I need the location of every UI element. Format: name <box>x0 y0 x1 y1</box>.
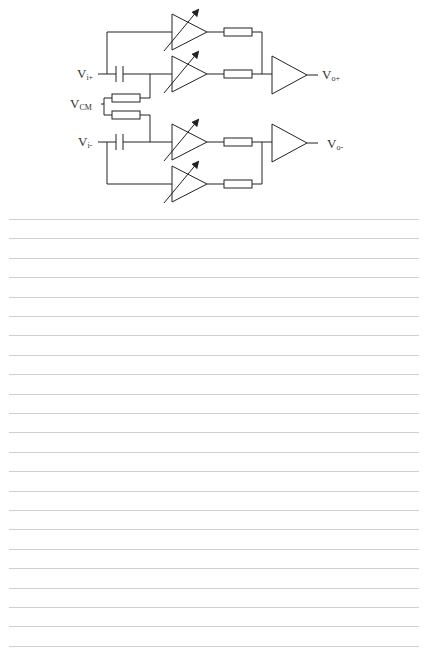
ruled-line <box>9 529 419 530</box>
ruled-line <box>9 510 419 511</box>
circuit-diagram <box>0 0 428 210</box>
vga-1 <box>164 10 262 51</box>
vga-2 <box>164 32 272 93</box>
ruled-line <box>9 607 419 608</box>
ruled-line <box>9 258 419 259</box>
ruled-line <box>9 568 419 569</box>
label-vo-minus: Vo- <box>327 136 343 152</box>
vga-3 <box>164 120 272 161</box>
ruled-line <box>9 588 419 589</box>
label-vi-plus: Vi+ <box>77 66 93 82</box>
ruled-line <box>9 374 419 375</box>
ruled-line <box>9 219 419 220</box>
ruled-line <box>9 335 419 336</box>
resistor-vcm-top <box>112 94 140 102</box>
ruled-line <box>9 432 419 433</box>
vi-plus-input <box>98 32 172 98</box>
label-vi-minus: Vi- <box>78 134 92 150</box>
label-vcm: VCM <box>70 96 92 112</box>
ruled-line <box>9 394 419 395</box>
label-vo-plus: Vo+ <box>322 67 340 83</box>
ruled-line <box>9 413 419 414</box>
ruled-line <box>9 471 419 472</box>
resistor-vcm-bottom <box>112 111 140 119</box>
ruled-line <box>9 238 419 239</box>
vi-minus-input <box>98 134 172 184</box>
ruled-line <box>9 646 419 647</box>
ruled-line <box>9 452 419 453</box>
ruled-line <box>9 297 419 298</box>
ruled-line <box>9 491 419 492</box>
output-buffer-plus <box>272 56 318 94</box>
ruled-line <box>9 355 419 356</box>
vcm-network <box>101 94 150 142</box>
vga-4 <box>164 142 262 203</box>
ruled-line <box>9 316 419 317</box>
ruled-line <box>9 549 419 550</box>
ruled-line <box>9 626 419 627</box>
output-buffer-minus <box>272 124 318 162</box>
ruled-line <box>9 277 419 278</box>
